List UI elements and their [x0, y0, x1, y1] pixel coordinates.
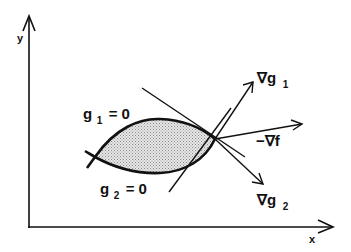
label-grad-g1: ∇g 1 — [256, 69, 289, 90]
kkt-diagram: y x g 1 = 0 g 2 = 0 ∇g 1 −∇f ∇g — [0, 0, 351, 252]
y-axis-label: y — [17, 32, 24, 44]
vector-grad-g1 — [215, 82, 253, 139]
label-grad-g2: ∇g 2 — [256, 191, 289, 212]
label-g1-equals-zero: g 1 = 0 — [83, 105, 130, 127]
label-g2-equals-zero: g 2 = 0 — [100, 180, 147, 202]
label-neg-grad-f: −∇f — [256, 132, 281, 149]
x-axis-label: x — [309, 233, 316, 245]
